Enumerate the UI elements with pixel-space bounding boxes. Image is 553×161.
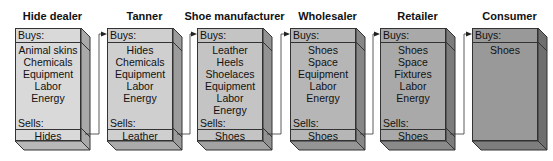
box-bottom-face (197, 141, 272, 150)
value-chain-diagram: Hide dealerBuys:Animal skinsChemicalsEqu… (0, 0, 553, 161)
box-depth-and-arrows (0, 0, 553, 161)
box-bottom-face (107, 141, 182, 150)
arrow-right-icon (374, 32, 380, 37)
box-bottom-face (15, 141, 90, 150)
arrow-right-icon (466, 32, 472, 37)
box-bottom-face (472, 141, 547, 150)
arrow-right-icon (101, 32, 107, 37)
box-bottom-face (380, 141, 455, 150)
arrow-right-icon (284, 32, 290, 37)
arrow-right-icon (191, 32, 197, 37)
box-bottom-face (290, 141, 365, 150)
